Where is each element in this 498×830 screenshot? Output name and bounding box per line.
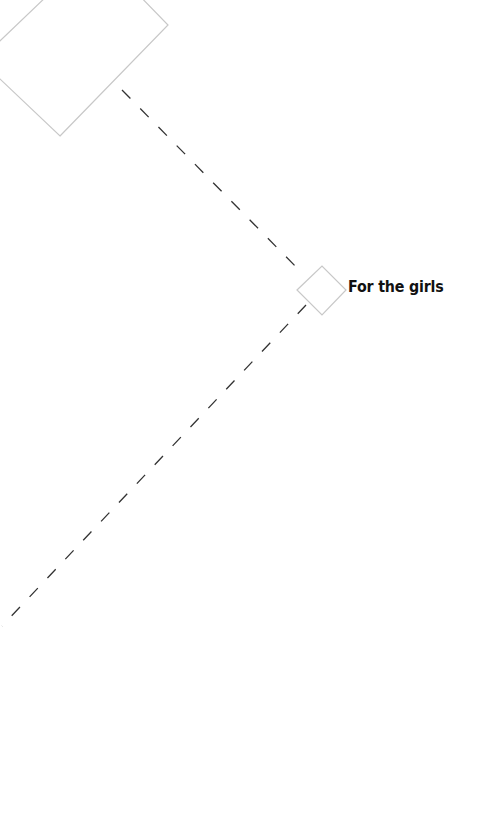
edge-child-to-offscreen xyxy=(2,305,306,626)
parent-node-diamond[interactable] xyxy=(0,0,168,136)
edge-parent-to-child xyxy=(122,90,303,274)
child-node-label[interactable]: For the girls xyxy=(348,278,444,296)
diagram-canvas xyxy=(0,0,498,830)
